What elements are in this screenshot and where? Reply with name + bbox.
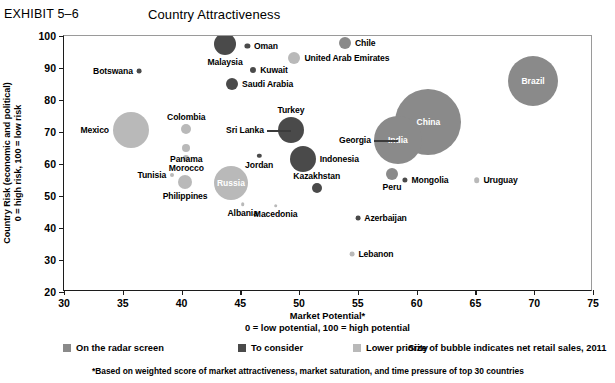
x-tick-mark [64, 290, 65, 295]
bubble-mongolia[interactable] [402, 177, 407, 182]
bubble-label-indonesia: Indonesia [320, 154, 359, 164]
bubble-botswana[interactable] [137, 69, 142, 74]
legend-label: On the radar screen [76, 343, 164, 353]
x-tick-mark [299, 290, 300, 295]
bubble-united-arab-emirates[interactable] [288, 52, 300, 64]
bubble-macedonia[interactable] [274, 204, 278, 208]
bubble-label-azerbaijan: Azerbaijan [364, 213, 406, 223]
y-tick-label: 50 [44, 190, 56, 202]
bubble-label-lebanon: Lebanon [358, 249, 393, 259]
bubble-label-sri-lanka: Sri Lanka [226, 125, 264, 135]
legend-swatch-icon [353, 344, 361, 352]
x-axis-title-line2: 0 = low potential, 100 = high potential [63, 322, 592, 334]
bubble-brazil[interactable] [508, 56, 558, 106]
bubble-label-uruguay: Uruguay [483, 175, 517, 185]
legend-item-on-the-radar-screen[interactable]: On the radar screen [63, 343, 164, 353]
y-tick-label: 80 [44, 94, 56, 106]
bubble-label-philippines: Philippines [163, 191, 208, 201]
bubble-uruguay[interactable] [474, 177, 480, 183]
x-axis-title-line1: Market Potential* [63, 310, 592, 322]
bubble-label-kazakhstan: Kazakhstan [293, 171, 340, 181]
x-tick-mark [475, 290, 476, 295]
y-tick-label: 70 [44, 126, 56, 138]
x-axis-title: Market Potential* 0 = low potential, 100… [63, 310, 592, 334]
bubble-label-oman: Oman [254, 41, 278, 51]
bubble-colombia[interactable] [181, 124, 191, 134]
x-tick-label: 35 [117, 297, 129, 309]
footnote: *Based on weighted score of market attra… [92, 366, 524, 376]
bubble-label-georgia: Georgia [339, 135, 371, 145]
y-tick-label: 20 [44, 286, 56, 298]
x-tick-label: 40 [176, 297, 188, 309]
bubble-label-saudi-arabia: Saudi Arabia [242, 79, 293, 89]
legend-item-to-consider[interactable]: To consider [238, 343, 303, 353]
bubble-tunisia[interactable] [170, 173, 174, 177]
bubble-malaysia[interactable] [214, 36, 236, 55]
bubble-label-mexico: Mexico [80, 125, 109, 135]
bubble-mexico[interactable] [113, 112, 149, 148]
bubble-label-kuwait: Kuwait [260, 65, 288, 75]
legend-swatch-icon [238, 344, 246, 352]
y-tick-label: 30 [44, 254, 56, 266]
y-tick-label: 60 [44, 158, 56, 170]
y-tick-label: 90 [44, 62, 56, 74]
x-tick-mark [534, 290, 535, 295]
x-tick-mark [417, 290, 418, 295]
bubble-label-peru: Peru [383, 182, 402, 192]
legend-label: Lower priority [366, 343, 428, 353]
exhibit-label: EXHIBIT 5–6 [4, 7, 79, 21]
bubble-label-macedonia: Macedonia [254, 209, 298, 219]
bubble-panama[interactable] [182, 144, 190, 152]
bubble-label-tunisia: Tunisia [137, 170, 166, 180]
legend-swatch-icon [63, 344, 71, 352]
x-tick-mark [182, 290, 183, 295]
bubble-kuwait[interactable] [250, 67, 256, 73]
bubble-label-turkey: Turkey [277, 105, 304, 115]
legend-item-lower-priority[interactable]: Lower priority [353, 343, 428, 353]
bubble-azerbaijan[interactable] [355, 216, 360, 221]
bubble-jordan[interactable] [257, 154, 261, 158]
y-tick-label: 100 [38, 30, 56, 42]
y-tick-label: 40 [44, 222, 56, 234]
legend-size-note: Size of bubble indicates net retail sale… [408, 343, 606, 353]
bubble-indonesia[interactable] [290, 146, 316, 172]
bubble-label-mongolia: Mongolia [412, 175, 449, 185]
leader-line-georgia [374, 140, 398, 142]
x-tick-label: 30 [58, 297, 70, 309]
bubble-label-colombia: Colombia [167, 112, 205, 122]
bubble-peru[interactable] [386, 168, 398, 180]
bubble-lebanon[interactable] [350, 252, 355, 257]
x-tick-label: 65 [470, 297, 482, 309]
x-tick-mark [240, 290, 241, 295]
x-tick-label: 55 [352, 297, 364, 309]
bubble-russia[interactable] [214, 166, 248, 200]
x-tick-mark [593, 290, 594, 295]
y-axis-title-line2: 0 = high risk, 100 = low risk [13, 105, 24, 222]
bubble-label-botswana: Botswana [93, 66, 133, 76]
bubble-chile[interactable] [339, 37, 351, 49]
x-tick-mark [123, 290, 124, 295]
bubble-oman[interactable] [245, 43, 250, 48]
bubble-philippines[interactable] [178, 175, 192, 189]
x-tick-mark [358, 290, 359, 295]
legend: Size of bubble indicates net retail sale… [63, 342, 608, 358]
chart-title: Country Attractiveness [148, 7, 280, 22]
leader-line-sri-lanka [267, 130, 291, 132]
x-tick-label: 45 [234, 297, 246, 309]
bubble-kazakhstan[interactable] [312, 183, 322, 193]
bubble-label-malaysia: Malaysia [208, 57, 243, 67]
x-tick-label: 60 [411, 297, 423, 309]
y-axis-title-line1: Country Risk (economic and political) [2, 82, 13, 244]
x-tick-label: 75 [587, 297, 599, 309]
bubble-label-united-arab-emirates: United Arab Emirates [304, 53, 389, 63]
y-axis-title: Country Risk (economic and political) 0 … [0, 35, 26, 291]
bubble-label-chile: Chile [355, 38, 376, 48]
bubble-albania[interactable] [241, 202, 245, 206]
plot-area: 203040506070809010030354045505560657075 … [63, 35, 592, 291]
x-tick-label: 70 [528, 297, 540, 309]
x-tick-label: 50 [293, 297, 305, 309]
bubble-label-morocco: Morocco [169, 163, 204, 173]
bubble-saudi-arabia[interactable] [226, 78, 238, 90]
bubble-series: ChinaBrazilIndiaRussiaMexicoTurkeyIndone… [64, 36, 591, 290]
bubble-label-jordan: Jordan [245, 160, 273, 170]
